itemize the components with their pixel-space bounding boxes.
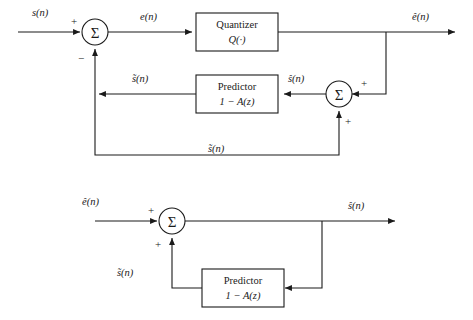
sign-plus-bottom-recon: + [345,115,351,127]
sign-plus-left-lower: + [148,204,154,216]
block-diagram-svg: Σ Quantizer Q(·) Σ Predictor 1 − A(z) s(… [0,0,473,320]
label-predictor-output-lower: s̃(n) [117,267,134,279]
quantizer-label-line1: Quantizer [216,19,258,30]
sign-minus-bottom-upper: − [78,52,84,64]
sigma-glyph-recon: Σ [335,87,344,103]
label-output-upper: ê(n) [412,11,429,23]
label-feedback-upper: s̃(n) [208,143,225,155]
label-predictor-output-upper: s̃(n) [132,73,149,85]
wire-predictor-to-sum-lower [172,238,202,288]
sigma-glyph-lower: Σ [168,214,177,230]
figure-canvas: Σ Quantizer Q(·) Σ Predictor 1 − A(z) s(… [0,0,473,320]
label-input-lower: ê(n) [82,196,99,208]
sigma-glyph-upper: Σ [91,25,100,41]
label-error-upper: e(n) [140,11,157,23]
sign-plus-bottom-lower: + [155,238,161,250]
predictor-label-line1-lower: Predictor [224,275,263,286]
label-input-upper: s(n) [32,7,49,19]
quantizer-label-line2: Q(·) [228,34,246,46]
predictor-label-line1-upper: Predictor [218,81,257,92]
predictor-label-line2-upper: 1 − A(z) [220,96,255,108]
wire-quantizer-tap-to-recon-sum [352,32,386,94]
sign-plus-right-recon: + [361,77,367,89]
label-output-lower: ŝ(n) [348,200,365,212]
wire-output-tap-to-predictor-lower [285,221,322,288]
label-recon-upper: ŝ(n) [288,73,305,85]
predictor-label-line2-lower: 1 − A(z) [226,290,261,302]
sign-plus-left-upper: + [71,15,77,27]
